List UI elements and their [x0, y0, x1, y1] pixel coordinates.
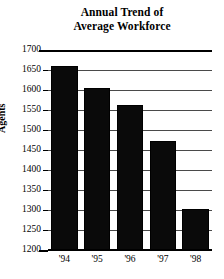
y-axis-tick-label: 1650	[22, 65, 41, 75]
bars-layer	[48, 50, 212, 250]
bar-chart: Annual Trend of Average Workforce Agents…	[0, 0, 224, 279]
plot-area: 1200125013001350140014501500155016001650…	[48, 50, 212, 250]
bar	[150, 141, 176, 250]
y-axis-tick-label: 1200	[22, 245, 41, 255]
x-axis-tick-label: '98	[190, 254, 201, 264]
bar	[182, 209, 208, 250]
y-axis-tick-label: 1250	[22, 225, 41, 235]
bar	[51, 66, 77, 250]
y-axis-tick-label: 1300	[22, 205, 41, 215]
y-axis-tick-label: 1700	[22, 45, 41, 55]
chart-title-line-2: Average Workforce	[30, 20, 214, 34]
y-axis-tick-label: 1350	[22, 185, 41, 195]
y-axis-tick-label: 1450	[22, 145, 41, 155]
y-axis-tick-label: 1400	[22, 165, 41, 175]
bar	[117, 105, 143, 250]
x-axis-tick-label: '94	[59, 254, 70, 264]
y-axis-tick-label: 1600	[22, 85, 41, 95]
chart-title: Annual Trend of Average Workforce	[30, 6, 214, 33]
x-axis-tick-label: '97	[157, 254, 168, 264]
bar	[84, 88, 110, 250]
x-axis-tick-label: '95	[92, 254, 103, 264]
x-axis-tick-label: '96	[124, 254, 135, 264]
y-axis-tick-label: 1550	[22, 105, 41, 115]
y-axis-tick-label: 1500	[22, 125, 41, 135]
chart-title-line-1: Annual Trend of	[30, 6, 214, 20]
y-axis-title: Agents	[0, 104, 7, 133]
